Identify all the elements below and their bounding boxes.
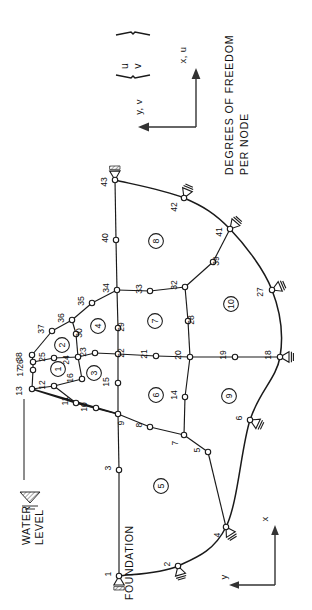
node-label-23: 23 <box>78 347 88 357</box>
foundation-arc <box>115 180 281 576</box>
node-marker-38[interactable] <box>29 352 34 357</box>
local-axis-y-label: y <box>218 574 229 579</box>
node-marker-42[interactable] <box>181 195 186 200</box>
node-marker-7[interactable] <box>181 432 186 437</box>
node-marker-6[interactable] <box>247 417 252 422</box>
node-marker-43[interactable] <box>112 177 117 182</box>
node-label-34: 34 <box>101 283 111 293</box>
node-label-29: 29 <box>116 322 126 332</box>
element-label-1: 1 <box>51 362 66 377</box>
element-label-9: 9 <box>222 389 237 404</box>
node-label-8: 8 <box>134 422 144 427</box>
node-marker-1[interactable] <box>116 573 121 578</box>
node-label-43: 43 <box>99 177 109 187</box>
mesh-edge <box>95 353 118 354</box>
dof-caption-line1: DEGREES OF FREEDOM <box>223 35 235 175</box>
outer-foundation-arc-group <box>115 180 281 576</box>
node-label-20: 20 <box>173 350 183 360</box>
node-marker-32[interactable] <box>182 284 187 289</box>
mesh-edge <box>184 397 185 435</box>
node-marker-2[interactable] <box>175 563 180 568</box>
svg-text:1: 1 <box>53 366 63 371</box>
svg-text:3: 3 <box>89 370 99 375</box>
node-label-10: 10 <box>79 402 89 412</box>
node-label-33: 33 <box>134 284 144 294</box>
water-level-label-line2: LEVEL <box>33 509 45 545</box>
node-label-5: 5 <box>192 447 202 452</box>
svg-text:10: 10 <box>226 299 236 309</box>
node-marker-17[interactable] <box>30 367 35 372</box>
node-marker-33[interactable] <box>147 288 152 293</box>
element-label-10: 10 <box>224 297 239 312</box>
node-marker-21[interactable] <box>153 353 158 358</box>
node-marker-37[interactable] <box>49 328 54 333</box>
node-marker-35[interactable] <box>89 300 94 305</box>
node-marker-20[interactable] <box>187 354 192 359</box>
node-label-36: 36 <box>56 313 66 323</box>
node-marker-18[interactable] <box>277 354 282 359</box>
mesh-edge <box>208 452 226 527</box>
mesh-edge <box>116 240 117 290</box>
mesh-edge <box>115 180 116 240</box>
node-marker-12[interactable] <box>51 383 56 388</box>
water-level-label-line1: WATER <box>20 505 32 545</box>
element-label-7: 7 <box>148 314 163 329</box>
node-label-42: 42 <box>169 202 179 212</box>
node-label-6: 6 <box>234 415 244 420</box>
node-marker-16[interactable] <box>79 376 84 381</box>
node-label-13: 13 <box>14 386 24 396</box>
node-label-30: 30 <box>74 328 84 338</box>
element-label-3: 3 <box>87 366 102 381</box>
mesh-edge <box>150 427 184 435</box>
node-marker-11[interactable] <box>73 400 78 405</box>
water-level-symbol <box>20 399 40 509</box>
svg-text:7: 7 <box>150 318 160 323</box>
global-axes: x, u y, v <box>133 47 200 132</box>
node-label-2: 2 <box>162 561 172 566</box>
node-label-7: 7 <box>170 440 180 445</box>
element-label-6: 6 <box>149 388 164 403</box>
node-marker-5[interactable] <box>205 449 210 454</box>
dof-caption-line2: PER NODE <box>238 113 250 175</box>
node-label-40: 40 <box>100 233 110 243</box>
node-marker-14[interactable] <box>182 394 187 399</box>
mesh-edge <box>185 357 190 397</box>
node-marker-23[interactable] <box>92 350 97 355</box>
local-axis-x-label: x <box>259 516 270 521</box>
node-marker-26[interactable] <box>30 359 35 364</box>
node-marker-3[interactable] <box>116 467 121 472</box>
node-marker-40[interactable] <box>113 237 118 242</box>
node-marker-8[interactable] <box>147 424 152 429</box>
node-label-11: 11 <box>60 396 70 405</box>
node-marker-19[interactable] <box>232 354 237 359</box>
node-label-group: 1234567891011121314151617181920212223242… <box>14 177 273 576</box>
node-label-35: 35 <box>76 296 86 306</box>
svg-text:9: 9 <box>224 393 234 398</box>
node-marker-15[interactable] <box>115 380 120 385</box>
element-label-2: 2 <box>55 338 70 353</box>
svg-text:5: 5 <box>156 483 166 488</box>
node-marker-9[interactable] <box>115 411 120 416</box>
mesh-edge <box>185 262 213 287</box>
node-marker-27[interactable] <box>269 287 274 292</box>
node-marker-34[interactable] <box>114 287 119 292</box>
node-label-19: 19 <box>218 350 228 360</box>
element-label-8: 8 <box>149 234 164 249</box>
mesh-edge <box>188 321 190 357</box>
node-marker-25[interactable] <box>51 355 56 360</box>
node-label-14: 14 <box>169 390 179 400</box>
dof-brace-symbol: u v <box>116 32 150 78</box>
node-marker-4[interactable] <box>223 524 228 529</box>
node-label-39: 39 <box>211 256 221 266</box>
node-marker-41[interactable] <box>227 226 232 231</box>
global-axis-x-label: x, u <box>177 47 188 64</box>
node-marker-36[interactable] <box>69 317 74 322</box>
mesh-edge <box>78 357 82 379</box>
node-marker-13[interactable] <box>29 386 34 391</box>
node-label-22: 22 <box>116 348 126 358</box>
node-label-4: 4 <box>212 532 222 537</box>
node-label-9: 9 <box>116 420 126 425</box>
node-label-15: 15 <box>101 377 111 387</box>
svg-text:4: 4 <box>93 323 103 328</box>
node-marker-10[interactable] <box>93 405 98 410</box>
